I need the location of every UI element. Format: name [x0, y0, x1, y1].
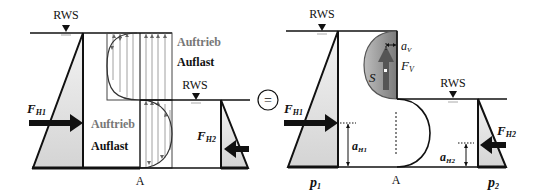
- svg-text:aH1: aH1: [352, 139, 367, 154]
- arm-subscript: V: [407, 46, 412, 54]
- force-subscript: H2: [205, 135, 216, 144]
- arm-subscript: H2: [445, 157, 455, 165]
- force-subscript: H1: [35, 108, 46, 117]
- force-subscript: H2: [505, 130, 516, 139]
- load-label-upper: Auflast: [177, 55, 214, 69]
- svg-text:FH2: FH2: [496, 123, 516, 139]
- pressure-label-p1: p1: [309, 175, 321, 191]
- pivot-label-a: A: [392, 173, 401, 187]
- rws-label: RWS: [440, 76, 465, 90]
- force-symbol: F: [283, 101, 293, 116]
- right-panel: RWS S aV FV RWS: [283, 7, 516, 191]
- water-level-triangle-icon: [62, 25, 70, 32]
- force-symbol: F: [196, 128, 206, 143]
- svg-text:FH2: FH2: [196, 128, 216, 144]
- arm-dimension-ah2: aH2: [440, 143, 474, 166]
- hydrostatic-force-diagram: RWS: [0, 0, 538, 196]
- pivot-label-a: A: [136, 174, 145, 188]
- force-subscript: V: [409, 65, 415, 74]
- force-symbol: F: [496, 123, 506, 138]
- centroid-marker: [384, 69, 387, 72]
- water-level-lower-left: RWS: [140, 78, 250, 103]
- svg-text:FH1: FH1: [283, 101, 303, 117]
- pressure-distribution-lower: [140, 100, 172, 168]
- buoyancy-label-upper: Auftrieb: [177, 35, 221, 49]
- buoyancy-body-shaded: [364, 31, 397, 99]
- svg-text:aV: aV: [401, 39, 412, 54]
- arm-dimension-ah1: aH1: [340, 123, 367, 166]
- force-subscript: H1: [292, 108, 303, 117]
- arm-subscript: H1: [357, 146, 367, 154]
- water-level-triangle-icon: [449, 91, 457, 98]
- svg-text:FH1: FH1: [26, 101, 46, 117]
- lower-curved-body: [397, 99, 430, 167]
- rws-label: RWS: [309, 7, 334, 21]
- pressure-triangle-right: [221, 100, 248, 168]
- buoyancy-label-lower: Auftrieb: [91, 117, 135, 131]
- water-level-triangle-icon: [318, 24, 326, 31]
- equals-symbol: =: [264, 93, 272, 108]
- rws-label: RWS: [53, 8, 78, 22]
- water-level-upper-right: RWS: [286, 7, 397, 34]
- centroid-label-s: S: [369, 70, 376, 85]
- svg-text:aH2: aH2: [440, 150, 455, 165]
- pressure-triangle-left: [33, 33, 83, 168]
- rws-label: RWS: [182, 78, 207, 92]
- equals-operator: =: [258, 90, 278, 110]
- fv-label: FV: [400, 58, 415, 74]
- water-level-lower-right: RWS: [397, 76, 507, 102]
- force-symbol: F: [26, 101, 36, 116]
- water-level-upper-left: RWS: [30, 8, 172, 35]
- left-panel: RWS: [26, 8, 250, 188]
- pressure-label-p2: p2: [487, 175, 499, 191]
- water-level-triangle-icon: [192, 93, 200, 100]
- load-label-lower: Auflast: [91, 139, 128, 153]
- pressure-triangle-left: [288, 31, 338, 167]
